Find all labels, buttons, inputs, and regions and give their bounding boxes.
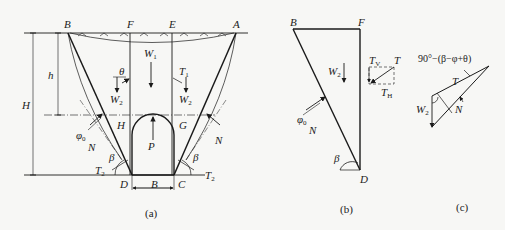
point-a-label: A <box>233 19 240 30</box>
phi0-label-b: φ0 <box>297 114 307 127</box>
force-p-label: P <box>148 141 155 152</box>
force-n-label-c: N <box>455 104 462 115</box>
diagram-canvas: B F E A H h W1 θ W2 T1 W2 φ0 N H G P N β… <box>0 0 505 230</box>
point-d-label: D <box>120 179 128 190</box>
force-w2-right-label: W2 <box>179 94 192 107</box>
force-th-label: TH <box>381 87 392 100</box>
beta-right-label: β <box>193 152 198 163</box>
force-tv-label: TV <box>369 55 380 68</box>
force-n-right-label: N <box>215 135 222 146</box>
dim-h-label: h <box>48 70 54 81</box>
force-n-label-b: N <box>309 125 316 136</box>
point-f-label: F <box>127 19 134 30</box>
caption-a: (a) <box>145 208 157 219</box>
beta-label-b: β <box>334 153 339 164</box>
force-w2-label-c: W2 <box>416 104 429 117</box>
force-w2-left-label: W2 <box>110 94 123 107</box>
force-n-left-label: N <box>88 142 95 153</box>
force-t-label-b: T <box>394 55 400 66</box>
point-g-label: G <box>179 120 187 131</box>
dim-h-total-label: H <box>22 100 30 111</box>
point-e-label: E <box>169 19 176 30</box>
dim-b-label: B <box>151 179 158 190</box>
diagram-lines <box>0 0 505 230</box>
force-t2-left-label: T2 <box>95 165 105 178</box>
phi0-left-label: φ0 <box>76 130 86 143</box>
angle-label-c: 90°−(β−φ+θ) <box>418 54 471 64</box>
point-b-label: B <box>64 19 71 30</box>
force-t2-right-label: T2 <box>205 170 215 183</box>
beta-left-label: β <box>109 152 114 163</box>
force-t1-label: T1 <box>179 66 189 79</box>
force-t-label-c: T <box>452 76 458 87</box>
point-d-label-b: D <box>360 174 368 185</box>
theta-label: θ <box>119 66 124 77</box>
force-w1-label: W1 <box>144 48 157 61</box>
caption-c: (c) <box>456 202 468 213</box>
point-f-label-b: F <box>358 17 365 28</box>
caption-b: (b) <box>340 204 353 215</box>
point-h-label: H <box>117 120 125 131</box>
point-b-label-b: B <box>290 17 297 28</box>
force-w2-label-b: W2 <box>328 66 341 79</box>
point-c-label: C <box>178 179 185 190</box>
